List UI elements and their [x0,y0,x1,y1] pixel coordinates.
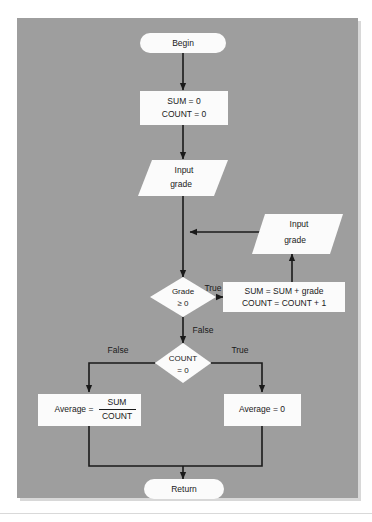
node-accumulate-line1: SUM = SUM + grade [245,286,324,296]
edge-average-zero-to-merge [183,426,262,466]
edge-count-false-to-average-div [89,363,155,392]
flowchart-page: Begin SUM = 0 COUNT = 0 Input grade Inpu… [0,0,372,522]
node-average-div-numerator: SUM [108,397,127,407]
node-input-loop-line1: Input [290,219,310,229]
node-count-test-line2: = 0 [177,366,189,375]
node-input-loop-line2: grade [284,235,306,245]
node-init-line1: SUM = 0 [167,96,201,106]
edge-count-true-to-average-zero [211,363,262,392]
node-grade-test-line2: ≥ 0 [177,299,189,308]
edge-label-count-false: False [108,345,129,355]
flowchart-canvas: Begin SUM = 0 COUNT = 0 Input grade Inpu… [0,0,372,522]
edge-average-div-to-merge [89,426,183,466]
node-begin-label: Begin [172,38,194,48]
node-average-div-prefix: Average = [55,404,94,414]
node-average-zero-label: Average = 0 [239,404,285,414]
node-init-line2: COUNT = 0 [162,109,207,119]
node-input-first-line2: grade [170,179,192,189]
edge-label-count-true: True [231,345,248,355]
node-input-first-line1: Input [175,165,195,175]
node-accumulate-line2: COUNT = COUNT + 1 [242,298,327,308]
node-count-test-line1: COUNT [169,354,198,363]
node-return-label: Return [171,484,197,494]
node-count-test [155,343,211,383]
edge-label-grade-true: True [204,283,221,293]
node-grade-test-line1: Grade [172,287,195,296]
node-average-div-denominator: COUNT [102,411,132,421]
edge-label-grade-false: False [193,325,214,335]
